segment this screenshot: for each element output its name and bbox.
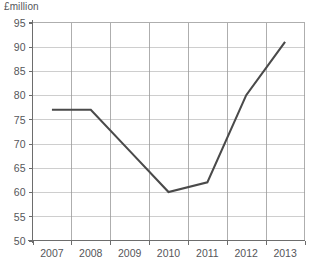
x-tick-label-2008: 2008 (79, 247, 103, 259)
vertical-gridlines (72, 23, 267, 241)
y-tick-label-55: 55 (14, 211, 26, 223)
y-axis-tick-labels: 95908580757065605550 (14, 17, 26, 247)
y-tick-label-60: 60 (14, 186, 26, 198)
x-tick-label-2007: 2007 (40, 247, 64, 259)
y-axis-ticks (29, 23, 33, 241)
line-chart: £million 95908580757065605550 2007200820… (0, 0, 318, 264)
y-tick-label-95: 95 (14, 17, 26, 29)
x-axis-ticks (34, 241, 306, 246)
x-tick-label-2013: 2013 (273, 247, 297, 259)
x-axis-tick-labels: 2007200820092010201120122013 (40, 247, 297, 259)
x-tick-label-2012: 2012 (235, 247, 259, 259)
plot-border (33, 23, 305, 241)
y-tick-label-65: 65 (14, 162, 26, 174)
y-tick-label-90: 90 (14, 41, 26, 53)
y-tick-label-50: 50 (14, 235, 26, 247)
x-tick-label-2009: 2009 (118, 247, 142, 259)
data-series-line (52, 42, 285, 192)
x-tick-label-2011: 2011 (196, 247, 219, 259)
y-tick-label-85: 85 (14, 65, 26, 77)
y-tick-label-70: 70 (14, 138, 26, 150)
plot-area: 95908580757065605550 2007200820092010201… (0, 0, 318, 264)
x-tick-label-2010: 2010 (157, 247, 181, 259)
y-tick-label-80: 80 (14, 89, 26, 101)
y-tick-label-75: 75 (14, 114, 26, 126)
